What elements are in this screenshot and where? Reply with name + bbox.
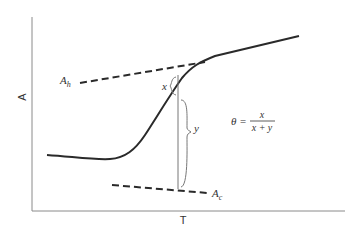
y-segment-label: y — [193, 122, 199, 134]
x-segment-label: x — [161, 80, 167, 92]
x-axis-label: T — [180, 214, 187, 226]
sigmoid-curve — [47, 36, 299, 159]
diagram-canvas: A T Ah Ac x y θ = x x + y — [0, 0, 351, 227]
lower-baseline-dashed — [112, 185, 208, 193]
y-brace — [181, 100, 191, 187]
lower-baseline-label: Ac — [211, 187, 223, 202]
x-brace — [170, 77, 176, 95]
y-axis-label: A — [16, 93, 28, 101]
equation-denominator: x + y — [251, 122, 273, 133]
upper-baseline-label: Ah — [59, 74, 71, 89]
equation-lhs: θ = — [231, 115, 247, 127]
equation-numerator: x — [259, 109, 265, 120]
